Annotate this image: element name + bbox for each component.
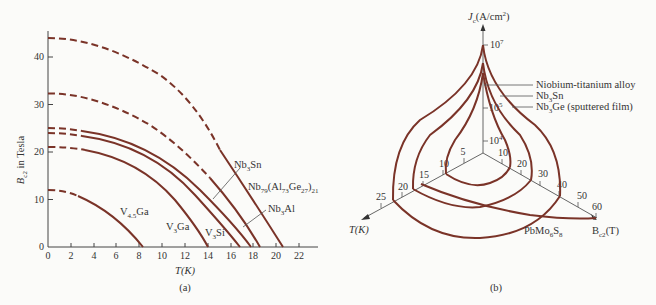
svg-text:50: 50 (577, 190, 587, 201)
svg-text:22: 22 (294, 250, 304, 261)
svg-text:20: 20 (398, 181, 408, 192)
svg-text:40: 40 (557, 179, 567, 190)
svg-text:15: 15 (419, 169, 429, 180)
label-nbalge: Nb79(Al73Ge27)21 (248, 181, 319, 195)
svg-text:14: 14 (203, 250, 213, 261)
svg-text:40: 40 (34, 51, 44, 62)
jc-tick-1e4: 104 (489, 134, 503, 146)
label-nb3sn: Nb3Sn (234, 159, 262, 173)
svg-text:18: 18 (248, 250, 258, 261)
x-axis-label: T(K) (175, 265, 195, 277)
svg-text:30: 30 (34, 99, 44, 110)
label-v3si: V3Si (205, 227, 225, 241)
jc-tick-1e7: 107 (490, 38, 504, 50)
svg-text:30: 30 (538, 168, 548, 179)
y-ticks: 0 10 20 30 40 (34, 51, 53, 252)
svg-text:12: 12 (180, 250, 190, 261)
panel-a: 0 10 20 30 40 0 2 4 6 8 10 12 (15, 31, 319, 294)
curve-nb3sn-dashed (48, 128, 82, 131)
svg-text:60: 60 (592, 201, 602, 212)
bc2-tick-labels: 10 20 30 40 50 60 (498, 147, 602, 212)
surface-nb3ge (393, 45, 560, 238)
bc2-axis-label: Bc2(T) (592, 225, 620, 239)
surface-pbmo6s8 (421, 184, 596, 219)
svg-text:20: 20 (271, 250, 281, 261)
jc-axis-label: Jc(A/cm2) (468, 10, 510, 25)
svg-text:16: 16 (226, 250, 236, 261)
svg-text:20: 20 (34, 146, 44, 157)
svg-text:10: 10 (157, 250, 167, 261)
svg-text:10: 10 (498, 147, 508, 158)
label-nb3al: Nb3Al (268, 203, 295, 217)
x-tick-labels: 0 2 4 6 8 10 12 14 16 18 20 22 (46, 250, 305, 261)
curve-labels: V4.5Ga V3Ga V3Si Nb3Sn Nb79(Al73Ge27)21 … (120, 159, 319, 241)
legend-nbti: Niobium-titanium alloy (536, 79, 636, 90)
label-v45ga: V4.5Ga (120, 206, 149, 220)
curve-v3ga-solid (85, 150, 208, 247)
svg-text:5: 5 (461, 146, 466, 157)
svg-text:25: 25 (376, 191, 386, 202)
figure-canvas: 0 10 20 30 40 0 2 4 6 8 10 12 (0, 0, 656, 305)
curve-v45ga-dashed (48, 190, 78, 196)
label-v3ga: V3Ga (166, 221, 190, 235)
curve-v45ga-solid (78, 196, 143, 247)
svg-text:0: 0 (39, 241, 44, 252)
curve-nbalge-dashed (48, 38, 220, 150)
svg-text:4: 4 (92, 250, 97, 261)
svg-text:20: 20 (517, 158, 527, 169)
label-pbmo6s8: PbMo6S8 (524, 225, 563, 239)
svg-text:10: 10 (34, 194, 44, 205)
leader-lines (213, 168, 266, 227)
y-axis-label: Bc2 in Tesla (15, 136, 29, 185)
svg-text:8: 8 (137, 250, 142, 261)
t-axis-arrow-icon (361, 214, 370, 220)
curve-v3si-dashed (48, 133, 82, 136)
jc-axis-arrow-icon (481, 24, 486, 31)
panel-b: 107 105 104 5 10 15 20 25 T(K) (349, 10, 636, 294)
legend: Niobium-titanium alloy Nb3Sn Nb3Ge (sput… (536, 79, 636, 115)
svg-text:0: 0 (46, 250, 51, 261)
svg-text:6: 6 (114, 250, 119, 261)
panel-a-caption: (a) (179, 282, 191, 294)
x-ticks (71, 243, 299, 247)
panel-b-caption: (b) (490, 282, 503, 294)
curves (48, 38, 283, 247)
svg-text:Bc2 in Tesla: Bc2 in Tesla (15, 136, 29, 185)
t-axis-label: T(K) (349, 224, 369, 236)
curve-v3ga-dashed (48, 147, 85, 150)
svg-text:2: 2 (69, 250, 74, 261)
